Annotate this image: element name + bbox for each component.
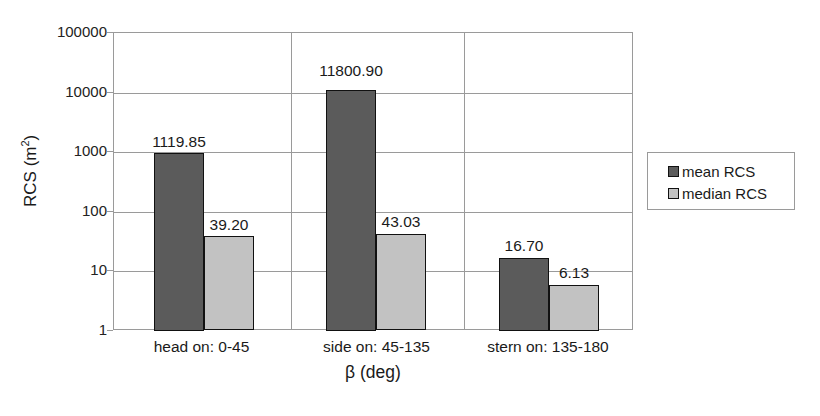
legend-swatch-icon (668, 188, 679, 199)
x-category-stern-on: stern on: 135-180 (463, 338, 633, 355)
bar-value-label: 11800.90 (287, 63, 415, 79)
bar-mean-head-on[interactable] (154, 153, 204, 331)
bar-median-head-on[interactable] (204, 236, 254, 330)
bar-median-side-on[interactable] (376, 234, 426, 331)
legend-entry-median-rcs[interactable]: median RCS (668, 182, 794, 204)
bar-median-stern-on[interactable] (549, 285, 599, 331)
plot-area: 1119.85 39.20 11800.90 43.03 16.70 6.13 (113, 32, 633, 330)
y-axis: 100000 10000 1000 100 10 1 (0, 0, 107, 416)
y-tick-label: 10 (90, 262, 107, 277)
x-category-side-on: side on: 45-135 (290, 338, 463, 355)
legend-label: median RCS (682, 185, 767, 202)
y-tick-mark (107, 330, 113, 331)
bar-value-label: 16.70 (485, 238, 563, 254)
legend-entry-mean-rcs[interactable]: mean RCS (668, 160, 794, 182)
x-axis-title: β (deg) (113, 362, 633, 383)
bar-mean-side-on[interactable] (326, 90, 376, 331)
rcs-bar-chart: 100000 10000 1000 100 10 1 RCS (m2) (0, 0, 820, 416)
y-axis-title: RCS (m2) (19, 81, 41, 261)
legend: mean RCS median RCS (647, 152, 795, 210)
y-tick-label: 1000 (74, 143, 107, 158)
legend-swatch-icon (668, 166, 679, 177)
y-tick-label: 10000 (65, 84, 107, 99)
y-axis-title-close: ) (21, 135, 40, 141)
x-category-head-on: head on: 0-45 (113, 338, 290, 355)
y-tick-label: 100000 (57, 24, 107, 39)
category-separator-2 (464, 33, 465, 329)
y-tick-label: 100 (82, 203, 107, 218)
y-axis-title-exponent: 2 (19, 140, 31, 146)
y-axis-title-text: RCS (m (21, 147, 40, 207)
bar-value-label: 43.03 (362, 214, 440, 230)
bar-value-label: 6.13 (539, 265, 609, 281)
y-tick-label: 1 (99, 322, 107, 337)
legend-label: mean RCS (682, 163, 755, 180)
bar-value-label: 39.20 (190, 217, 268, 233)
bar-value-label: 1119.85 (122, 134, 236, 150)
